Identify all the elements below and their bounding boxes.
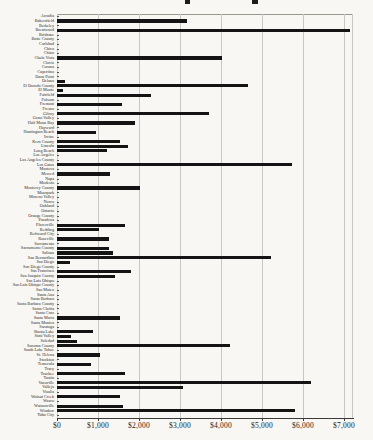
bar-sonoma-county: [57, 344, 230, 347]
bar-simi-valley: [57, 335, 71, 338]
category-tick: [57, 39, 59, 40]
x-tick-label: $2,000: [116, 421, 162, 430]
category-tick: [57, 322, 59, 323]
bar-el-dorado-county: [57, 84, 248, 87]
bar-san-diego: [57, 261, 70, 264]
category-tick: [57, 304, 59, 305]
bar-redding: [57, 228, 99, 231]
category-tick: [57, 127, 59, 128]
category-tick: [57, 295, 59, 296]
category-axis: ArcadiaBakersfieldBerkeleyBrentwoodBrisb…: [0, 14, 55, 418]
category-tick: [57, 359, 59, 360]
category-tick: [57, 16, 59, 17]
category-tick: [57, 137, 59, 138]
x-tick-label: $5,000: [239, 421, 285, 430]
bar-delano: [57, 80, 65, 83]
category-tick: [57, 67, 59, 68]
bar-huntington-beach: [57, 131, 96, 134]
bar-temecula: [57, 363, 91, 366]
category-tick: [57, 53, 59, 54]
category-tick: [57, 401, 59, 402]
bar-walnut-creek: [57, 395, 120, 398]
bar-fairfield: [57, 94, 151, 97]
category-tick: [57, 109, 59, 110]
category-tick: [57, 308, 59, 309]
category-tick: [57, 160, 59, 161]
x-tick-label: $1,000: [75, 421, 121, 430]
category-tick: [57, 216, 59, 217]
bar-brentwood: [57, 29, 350, 32]
bar-chula-vista: [57, 56, 222, 59]
category-tick: [57, 285, 59, 286]
x-tick-label: $4,000: [198, 421, 244, 430]
x-tick-label: $6,000: [280, 421, 326, 430]
category-tick: [57, 290, 59, 291]
cropped-title-fragment: [185, 0, 190, 4]
bar-vallejo: [57, 386, 183, 389]
category-tick: [57, 155, 59, 156]
bar-san-bernardino: [57, 256, 271, 259]
category-tick: [57, 202, 59, 203]
cropped-title-fragment: [252, 0, 258, 4]
category-tick: [57, 72, 59, 73]
category-tick: [57, 299, 59, 300]
category-tick: [57, 211, 59, 212]
category-tick: [57, 415, 59, 416]
bar-el-monte: [57, 89, 63, 92]
bar-chart: ArcadiaBakersfieldBerkeleyBrentwoodBrisb…: [0, 0, 373, 440]
category-tick: [57, 378, 59, 379]
bars-layer: [57, 14, 353, 418]
x-tick-label: $3,000: [157, 421, 203, 430]
plot-area: [57, 14, 353, 418]
category-tick: [57, 369, 59, 370]
bar-gilroy: [57, 112, 209, 115]
bar-lincoln: [57, 145, 128, 148]
bar-sacramento-county: [57, 247, 109, 250]
category-tick: [57, 327, 59, 328]
category-tick: [57, 35, 59, 36]
x-tick-label: $7,000: [321, 421, 367, 430]
category-tick: [57, 76, 59, 77]
bar-salinas: [57, 251, 113, 254]
bar-shasta-lake: [57, 330, 93, 333]
bar-monterey-county: [57, 186, 140, 189]
bar-kern-county: [57, 140, 120, 143]
category-tick: [57, 206, 59, 207]
bar-los-gatos: [57, 163, 292, 166]
x-tick-label: $0: [34, 421, 80, 430]
bar-roseville: [57, 237, 109, 240]
category-tick: [57, 118, 59, 119]
bar-san-joaquin-county: [57, 275, 115, 278]
bar-placerville: [57, 224, 125, 227]
bar-st-helena: [57, 353, 100, 356]
category-tick: [57, 313, 59, 314]
bar-long-beach: [57, 149, 107, 152]
category-tick: [57, 49, 59, 50]
x-axis-line: [57, 418, 354, 419]
category-tick: [57, 183, 59, 184]
category-label: Yuba City: [0, 413, 55, 418]
category-tick: [57, 234, 59, 235]
category-tick: [57, 192, 59, 193]
bar-truckee: [57, 372, 125, 375]
category-tick: [57, 169, 59, 170]
bar-vacaville: [57, 381, 311, 384]
category-tick: [57, 179, 59, 180]
category-tick: [57, 350, 59, 351]
category-tick: [57, 267, 59, 268]
bar-windsor: [57, 409, 295, 412]
category-tick: [57, 392, 59, 393]
category-tick: [57, 25, 59, 26]
category-tick: [57, 243, 59, 244]
category-tick: [57, 197, 59, 198]
bar-watsonville: [57, 405, 123, 408]
bar-half-moon-bay: [57, 121, 135, 124]
category-tick: [57, 281, 59, 282]
bar-bakersfield: [57, 19, 187, 22]
bar-santa-maria: [57, 316, 120, 319]
category-tick: [57, 44, 59, 45]
bar-san-francisco: [57, 270, 131, 273]
category-tick: [57, 100, 59, 101]
bar-soledad: [57, 340, 77, 343]
bar-merced: [57, 172, 110, 175]
